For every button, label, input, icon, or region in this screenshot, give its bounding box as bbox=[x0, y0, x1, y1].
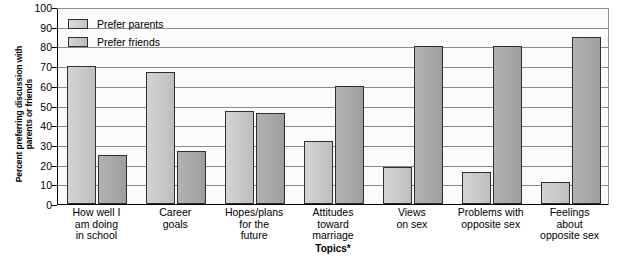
bar-prefer-parents bbox=[304, 141, 333, 204]
bar-group bbox=[452, 8, 531, 204]
x-axis-title: Topics* bbox=[57, 243, 609, 254]
legend-swatch-icon bbox=[68, 19, 88, 29]
bar-prefer-friends bbox=[493, 46, 522, 204]
bar-prefer-parents bbox=[383, 167, 412, 204]
y-tick-label: 0 bbox=[6, 200, 52, 210]
y-tick-label: 20 bbox=[6, 161, 52, 171]
x-category-label: Views on sex bbox=[372, 207, 451, 230]
bar-prefer-friends bbox=[98, 155, 127, 204]
y-tick-label: 30 bbox=[6, 141, 52, 151]
legend-item: Prefer parents bbox=[68, 16, 164, 31]
y-tick-label: 10 bbox=[6, 180, 52, 190]
y-tick-label: 90 bbox=[6, 23, 52, 33]
bar-prefer-friends bbox=[335, 86, 364, 204]
bar-prefer-friends bbox=[256, 113, 285, 204]
bar-group bbox=[216, 8, 295, 204]
x-category-label: Career goals bbox=[136, 207, 215, 230]
legend-label: Prefer parents bbox=[97, 18, 164, 30]
bar-group bbox=[295, 8, 374, 204]
y-tick-label: 70 bbox=[6, 62, 52, 72]
x-category-label: How well I am doing in school bbox=[57, 207, 136, 242]
y-axis-ticks: 1009080706050403020100 bbox=[0, 8, 52, 205]
x-category-label: Hopes/plans for the future bbox=[215, 207, 294, 242]
legend-label: Prefer friends bbox=[97, 36, 160, 48]
bar-prefer-parents bbox=[146, 72, 175, 204]
legend: Prefer parentsPrefer friends bbox=[68, 16, 164, 52]
y-tick-mark bbox=[52, 205, 57, 206]
bar-prefer-parents bbox=[67, 66, 96, 204]
legend-item: Prefer friends bbox=[68, 34, 164, 49]
bar-prefer-parents bbox=[541, 182, 570, 204]
legend-swatch-icon bbox=[68, 37, 88, 47]
y-tick-label: 50 bbox=[6, 102, 52, 112]
bar-prefer-friends bbox=[414, 46, 443, 204]
y-tick-label: 100 bbox=[6, 3, 52, 13]
bar-group bbox=[373, 8, 452, 204]
x-category-label: Feelings about opposite sex bbox=[530, 207, 609, 242]
bar-group bbox=[531, 8, 610, 204]
bar-chart-figure: Percent preferring discussion with paren… bbox=[0, 0, 618, 269]
bar-prefer-friends bbox=[572, 37, 601, 204]
x-category-label: Attitudes toward marriage bbox=[294, 207, 373, 242]
y-tick-label: 40 bbox=[6, 121, 52, 131]
bar-prefer-parents bbox=[225, 111, 254, 204]
x-category-label: Problems with opposite sex bbox=[451, 207, 530, 230]
bar-prefer-parents bbox=[462, 172, 491, 204]
y-tick-label: 60 bbox=[6, 82, 52, 92]
y-tick-label: 80 bbox=[6, 42, 52, 52]
bar-prefer-friends bbox=[177, 151, 206, 204]
